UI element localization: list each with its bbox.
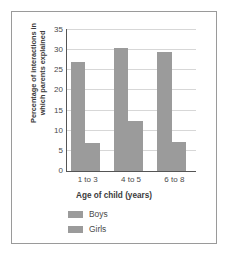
x-axis-title: Age of child (years) [11, 191, 217, 200]
bar-boys-4-to-5 [114, 48, 129, 171]
x-axis-tick-labels: 1 to 34 to 56 to 8 [66, 175, 196, 187]
y-axis-tick-label: 10 [47, 127, 63, 135]
gridline [66, 110, 196, 111]
x-axis-line [66, 171, 196, 172]
y-axis-title-line-1: Percentage of interactions in [29, 23, 38, 123]
plot-area [66, 30, 196, 171]
y-axis-tick-label: 25 [47, 66, 63, 74]
bar-boys-1-to-3 [71, 62, 86, 171]
y-axis-line [66, 29, 67, 172]
legend-swatch-icon [68, 211, 83, 218]
y-axis-tick-label: 30 [47, 46, 63, 54]
y-axis-tick-label: 15 [47, 107, 63, 115]
x-axis-tick-label: 6 to 8 [153, 175, 196, 185]
legend-label: Girls [89, 225, 106, 234]
y-axis-tick-label: 20 [47, 86, 63, 94]
gridline [66, 49, 196, 50]
y-axis-tick-label: 5 [47, 147, 63, 155]
y-axis-tick-label: 0 [47, 167, 63, 175]
legend-item-boys: Boys [68, 208, 168, 221]
bar-girls-4-to-5 [128, 121, 143, 171]
legend-label: Boys [89, 210, 108, 219]
x-axis-tick-label: 4 to 5 [109, 175, 152, 185]
legend-swatch-icon [68, 226, 83, 233]
chart-figure: Percentage of interactions in which pare… [0, 0, 228, 261]
legend-item-girls: Girls [68, 223, 168, 236]
bar-boys-6-to-8 [157, 52, 172, 171]
y-axis-tick-label: 35 [47, 26, 63, 34]
gridline [66, 89, 196, 90]
y-axis-tick-labels: 05101520253035 [45, 30, 63, 171]
bar-girls-6-to-8 [172, 142, 187, 171]
bar-girls-1-to-3 [85, 143, 100, 171]
x-axis-tick-label: 1 to 3 [66, 175, 109, 185]
chart-legend: BoysGirls [68, 208, 168, 238]
gridline [66, 29, 196, 30]
gridline [66, 69, 196, 70]
